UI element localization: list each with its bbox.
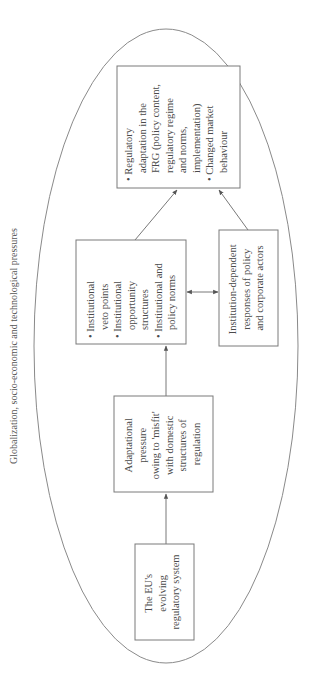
- node-text-line: pressure: [137, 427, 148, 462]
- node-text-line: veto points: [99, 284, 110, 330]
- node-text-line: adaptation in the: [137, 103, 148, 173]
- node-text-line: structures: [139, 289, 150, 330]
- node-text-line: regulatory regime: [164, 98, 175, 173]
- node-text-line: Adaptational: [123, 418, 134, 472]
- node-text-line: evolving: [157, 574, 168, 611]
- node-text-line: The EU's: [143, 574, 154, 613]
- node-text-line: • Regulatory: [123, 127, 134, 181]
- node-actor-responses: Institution-dependent responses of polic…: [219, 230, 278, 346]
- node-text-line: opportunity: [126, 280, 137, 330]
- node-text-line: • Institutional: [85, 281, 96, 338]
- svg-text:Institution-dependent: Institution-dependent responses of polic…: [227, 242, 265, 334]
- node-text-line: with domestic: [164, 415, 175, 475]
- node-institutional: • Institutional veto points • Institutio…: [76, 240, 186, 344]
- outer-context-label: Globalization, socio-economic and techno…: [8, 228, 19, 464]
- edge-actors-to-adaptation: [219, 190, 248, 230]
- node-text-line: Institution-dependent: [227, 244, 238, 334]
- node-text-line: owing to 'misfit': [150, 411, 161, 479]
- node-text-line: implementation): [191, 103, 203, 173]
- node-text-line: and corporate actors: [254, 245, 265, 330]
- node-text-line: • Institutional: [112, 281, 123, 338]
- node-text-line: FRG (policy content,: [150, 84, 162, 173]
- diagram-canvas: Globalization, socio-economic and techno…: [0, 0, 313, 695]
- node-text-line: • Institutional and: [153, 262, 164, 338]
- node-text-line: regulatory system: [170, 555, 181, 630]
- node-text-line: and norms,: [177, 126, 188, 173]
- node-regulatory-adaptation: • Regulatory adaptation in the FRG (poli…: [117, 66, 240, 188]
- node-eu-system: The EU's evolving regulatory system: [135, 544, 194, 640]
- node-text-line: • Changed market: [204, 106, 215, 181]
- node-text-line: policy norms: [166, 275, 177, 330]
- edge-institutional-to-adaptation: [135, 190, 177, 240]
- node-text-line: responses of policy: [241, 248, 252, 330]
- node-adaptational-pressure: Adaptational pressure owing to 'misfit' …: [114, 396, 213, 492]
- node-text-line: regulation: [191, 422, 202, 465]
- node-text-line: structures of: [177, 419, 188, 472]
- node-text-line: behaviour: [218, 131, 229, 173]
